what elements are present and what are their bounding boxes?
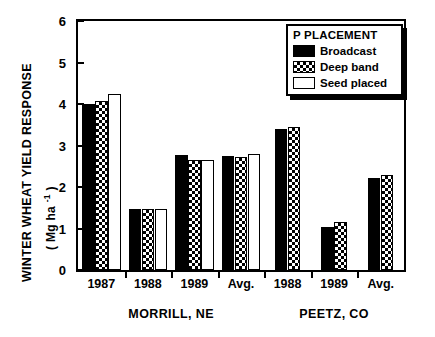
x-tick-mark [171,272,173,278]
y-tick-label: 4 [44,97,66,112]
x-tick-label: 1988 [134,277,162,291]
legend-item-broadcast: Broadcast [293,43,397,58]
legend-title: P PLACEMENT [293,29,397,41]
bar [381,175,394,270]
bar [222,156,235,270]
bar [248,154,261,270]
bar [142,209,155,270]
bar [108,94,121,270]
bar [235,157,248,270]
y-tick-label: 0 [44,263,66,278]
x-tick-mark [218,272,220,278]
y-tick-label: 6 [44,14,66,29]
bar [334,222,347,270]
x-tick-label: 1989 [320,277,348,291]
x-tick-mark [357,272,359,278]
bar [321,227,334,270]
legend-label-deep-band: Deep band [320,61,379,73]
x-tick-mark [264,272,266,278]
bar [129,209,142,270]
y-tick-label: 1 [44,221,66,236]
x-tick-label: 1988 [274,277,302,291]
x-tick-mark [311,272,313,278]
bar [275,129,288,271]
x-tick-label: 1989 [181,277,209,291]
chart-figure: WINTER WHEAT YIELD RESPONSE ( Mg ha -1 )… [0,0,435,337]
legend-item-seed-placed: Seed placed [293,75,397,90]
bar [95,101,108,270]
y-tick-label: 2 [44,180,66,195]
bar [82,104,95,270]
bar [201,160,214,270]
legend-label-seed-placed: Seed placed [320,77,387,89]
bar [155,209,168,270]
x-tick-label: Avg. [228,277,255,291]
y-axis-title-units: ( Mg ha -1 ) [42,186,58,250]
y-axis-title-main: WINTER WHEAT YIELD RESPONSE [20,63,34,282]
x-tick-label: Avg. [367,277,394,291]
bar [368,178,381,270]
legend-box: P PLACEMENT Broadcast Deep band Seed pla… [286,24,403,96]
solid-black-swatch-icon [293,45,315,57]
bar [175,155,188,270]
y-tick-label: 3 [44,138,66,153]
site-group-label: PEETZ, CO [299,307,369,321]
legend-label-broadcast: Broadcast [320,45,376,57]
site-group-label: MORRILL, NE [128,307,214,321]
bar [288,127,301,270]
x-tick-mark [125,272,127,278]
bar [188,160,201,270]
y-axis-units-superscript: -1 [42,194,52,202]
crosshatch-swatch-icon [293,61,315,73]
x-tick-label: 1987 [87,277,115,291]
white-swatch-icon [293,77,315,89]
y-tick-label: 5 [44,55,66,70]
legend-item-deep-band: Deep band [293,59,397,74]
